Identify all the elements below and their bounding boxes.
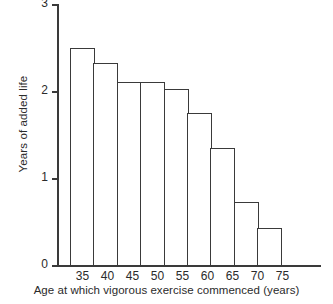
x-tick-label-75: 75 <box>270 269 295 284</box>
x-tick-label-40: 40 <box>95 269 120 284</box>
x-tick-label-50: 50 <box>145 269 170 284</box>
bar-70 <box>234 202 259 265</box>
bar-50 <box>140 82 165 265</box>
bar-series <box>70 4 282 265</box>
y-tick-2: 2 <box>52 91 58 93</box>
y-tick-3: 3 <box>52 4 58 6</box>
bar-chart: Years of added life 3 2 1 0 354045505560… <box>0 0 333 304</box>
bar-60 <box>187 113 212 265</box>
x-axis-title: Age at which vigorous exercise commenced… <box>0 284 333 296</box>
y-tick-label-3: 3 <box>41 0 48 10</box>
x-tick-label-55: 55 <box>170 269 195 284</box>
y-axis-title: Years of added life <box>17 49 29 199</box>
bar-75 <box>257 228 282 265</box>
y-tick-1: 1 <box>52 178 58 180</box>
x-axis-line <box>57 265 321 267</box>
bar-35 <box>70 48 95 266</box>
y-axis-line <box>57 4 59 267</box>
x-tick-label-70: 70 <box>245 269 270 284</box>
bar-45 <box>117 82 142 265</box>
x-tick-labels: 354045505560657075 <box>70 269 295 284</box>
bar-55 <box>164 89 189 265</box>
bar-40 <box>93 63 118 265</box>
x-tick-label-65: 65 <box>220 269 245 284</box>
plot-area: 3 2 1 0 354045505560657075 <box>57 4 321 267</box>
x-tick-label-35: 35 <box>70 269 95 284</box>
x-tick-label-60: 60 <box>195 269 220 284</box>
y-tick-label-2: 2 <box>41 83 48 97</box>
bar-65 <box>210 148 235 266</box>
y-tick-0: 0 <box>52 265 58 267</box>
y-tick-label-0: 0 <box>41 257 48 271</box>
x-tick-label-45: 45 <box>120 269 145 284</box>
y-tick-label-1: 1 <box>41 170 48 184</box>
